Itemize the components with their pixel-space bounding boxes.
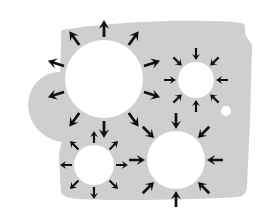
gray-slab [28,21,252,200]
circle-bottom-left [74,145,114,185]
diagram-canvas [0,0,269,215]
dots-layer [221,106,231,116]
circle-top-left [65,40,143,118]
circle-bottom-right [147,131,205,189]
figure-root [0,0,269,215]
circle-top-right [178,62,214,98]
small-white-dot [221,106,231,116]
